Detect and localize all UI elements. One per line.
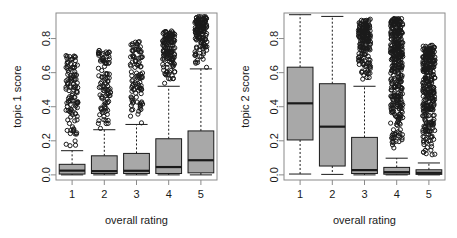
x-axis-title: overall rating	[333, 214, 396, 226]
boxplot-group	[91, 48, 117, 174]
box-body	[156, 139, 182, 174]
boxplot-figure: 0.00.20.40.60.8topic 1 score12345overall…	[0, 0, 457, 238]
boxplot-group	[384, 16, 410, 174]
boxplot-group	[287, 15, 313, 174]
x-tick-label: 4	[394, 188, 400, 200]
y-tick-label: 0.0	[268, 167, 280, 182]
x-tick-label: 1	[297, 188, 303, 200]
y-tick-label: 0.0	[40, 167, 52, 182]
boxplot-group	[59, 54, 85, 175]
y-tick-label: 0.6	[268, 65, 280, 80]
panel-topic-1: 0.00.20.40.60.8topic 1 score12345overall…	[0, 0, 228, 238]
outlier-point	[134, 95, 138, 99]
outlier-point	[163, 81, 167, 85]
outlier-point	[73, 139, 77, 143]
panel-topic-2: 0.00.20.40.60.8topic 2 score12345overall…	[228, 0, 456, 238]
plot-area-topic-1: 0.00.20.40.60.8topic 1 score12345overall…	[0, 0, 228, 238]
x-tick-label: 5	[426, 188, 432, 200]
y-tick-label: 0.8	[268, 31, 280, 46]
boxplot-group	[124, 40, 150, 175]
x-tick-label: 4	[166, 188, 172, 200]
y-tick-label: 0.2	[40, 133, 52, 148]
outlier-point	[391, 128, 395, 132]
y-tick-label: 0.4	[268, 99, 280, 114]
x-tick-label: 1	[69, 188, 75, 200]
outlier-point	[136, 112, 140, 116]
boxplot-group	[352, 17, 378, 175]
outlier-point	[96, 66, 100, 70]
outlier-point	[128, 114, 132, 118]
boxplot-group	[416, 43, 442, 175]
outlier-point	[98, 113, 102, 117]
outlier-point	[73, 143, 77, 147]
x-axis-title: overall rating	[105, 214, 168, 226]
x-tick-label: 2	[101, 188, 107, 200]
y-tick-label: 0.8	[40, 31, 52, 46]
x-tick-label: 3	[133, 188, 139, 200]
outlier-point	[389, 121, 393, 125]
outlier-point	[96, 121, 100, 125]
y-axis-title: topic 2 score	[239, 65, 251, 127]
box-body	[188, 131, 214, 173]
x-tick-label: 3	[361, 188, 367, 200]
x-tick-label: 2	[329, 188, 335, 200]
x-tick-label: 5	[198, 188, 204, 200]
boxplot-group	[156, 29, 182, 175]
box-body	[319, 84, 345, 166]
box-body	[352, 137, 378, 173]
box-body	[59, 164, 85, 174]
y-tick-label: 0.6	[40, 65, 52, 80]
plot-area-topic-2: 0.00.20.40.60.8topic 2 score12345overall…	[228, 0, 456, 238]
outlier-point	[433, 152, 437, 156]
y-tick-label: 0.2	[268, 133, 280, 148]
outlier-point	[68, 144, 72, 148]
boxplot-group	[319, 16, 345, 174]
boxplot-group	[188, 14, 214, 174]
y-axis-title: topic 1 score	[11, 65, 23, 127]
y-tick-label: 0.4	[40, 99, 52, 114]
